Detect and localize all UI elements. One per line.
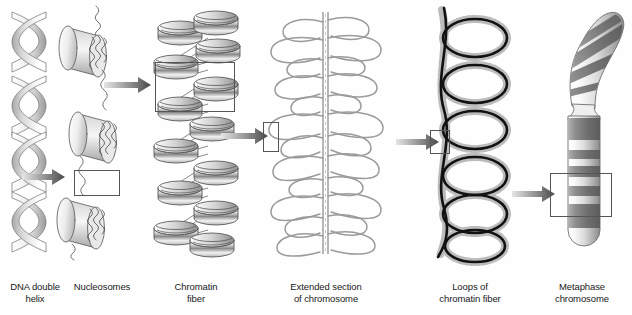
caption-nucleosomes: Nucleosomes	[68, 281, 136, 293]
caption-line-1: Metaphase	[559, 281, 605, 292]
caption-dna-double-helix: DNA double helix	[2, 281, 68, 304]
caption-chromatin-fiber: Chromatin fiber	[150, 281, 242, 304]
arrow-chromatin-to-extended	[221, 127, 269, 145]
panel-nucleosomes	[52, 4, 128, 260]
caption-line-2: of chromosome	[256, 293, 396, 305]
caption-line-1: DNA double	[10, 281, 60, 292]
diagram-canvas: DNA double helix Nucleosomes Chromatin f…	[0, 0, 632, 315]
caption-line-2: chromatin fiber	[412, 293, 528, 305]
highlight-loop-scaffold	[430, 130, 450, 154]
metaphase-chromosome-graphic	[538, 8, 628, 258]
extended-chromosome-graphic	[265, 8, 385, 258]
panel-extended-chromosome	[265, 8, 385, 258]
caption-line-1: Nucleosomes	[74, 281, 130, 292]
caption-line-2: chromosome	[534, 293, 630, 305]
caption-line-1: Chromatin	[175, 281, 218, 292]
caption-extended-chromosome: Extended section of chromosome	[256, 281, 396, 304]
highlight-metaphase-band	[550, 173, 612, 217]
highlight-chromatin-segment	[155, 62, 235, 112]
highlight-extended-loop	[263, 122, 279, 152]
nucleosomes-graphic	[52, 4, 128, 260]
highlight-nucleosome-linker	[74, 170, 120, 196]
caption-line-2: helix	[2, 293, 68, 305]
caption-loops-of-chromatin-fiber: Loops of chromatin fiber	[412, 281, 528, 304]
caption-metaphase-chromosome: Metaphase chromosome	[534, 281, 630, 304]
panel-metaphase-chromosome	[538, 8, 628, 258]
arrow-nucleosomes-to-chromatin	[104, 76, 152, 94]
panel-dna-double-helix	[2, 8, 58, 258]
caption-line-1: Loops of	[452, 281, 488, 292]
caption-line-1: Extended section	[290, 281, 361, 292]
caption-line-2: fiber	[150, 293, 242, 305]
dna-double-helix-graphic	[2, 8, 58, 258]
